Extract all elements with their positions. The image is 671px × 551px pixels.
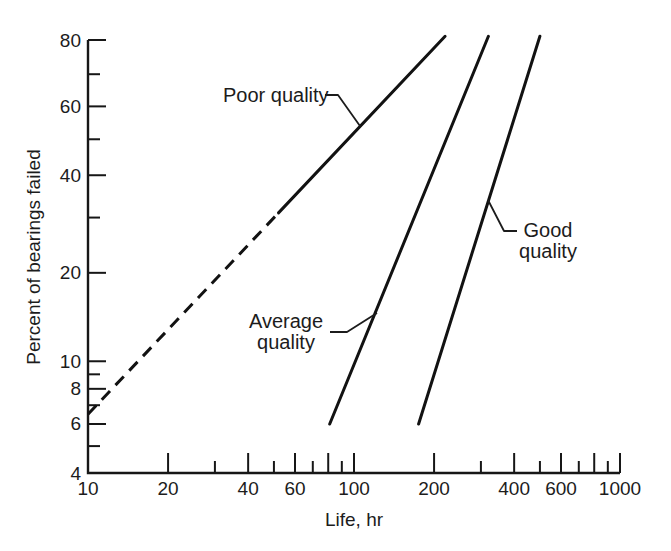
y-tick-label-80: 80 xyxy=(60,30,81,51)
series-line-poor-quality-solid xyxy=(279,36,446,213)
y-tick-label-40: 40 xyxy=(60,165,81,186)
y-axis-title: Percent of bearings failed xyxy=(23,149,44,364)
x-tick-label-600: 600 xyxy=(545,478,577,499)
x-tick-label-10: 10 xyxy=(77,478,98,499)
annotation-leader-poor-quality xyxy=(325,95,360,126)
bearing-life-weibull-chart: 4681020406080102040601002004006001000Poo… xyxy=(0,0,671,551)
annotation-label-average-quality-line1: Average xyxy=(249,310,323,332)
annotation-label-average-quality-line2: quality xyxy=(257,331,315,353)
x-tick-label-100: 100 xyxy=(338,478,370,499)
y-tick-label-6: 6 xyxy=(70,413,81,434)
x-tick-label-400: 400 xyxy=(498,478,530,499)
y-tick-label-10: 10 xyxy=(60,351,81,372)
y-tick-label-60: 60 xyxy=(60,96,81,117)
x-tick-label-60: 60 xyxy=(284,478,305,499)
x-tick-label-1000: 1000 xyxy=(599,478,641,499)
chart-canvas: 4681020406080102040601002004006001000Poo… xyxy=(0,0,671,551)
x-tick-label-200: 200 xyxy=(418,478,450,499)
x-tick-label-20: 20 xyxy=(158,478,179,499)
series-line-good-quality-solid xyxy=(419,36,540,424)
annotation-label-poor-quality-line1: Poor quality xyxy=(223,84,329,106)
chart-generated-content: 4681020406080102040601002004006001000Poo… xyxy=(60,30,641,500)
x-axis-title: Life, hr xyxy=(325,509,384,530)
x-tick-label-40: 40 xyxy=(238,478,259,499)
annotation-label-good-quality-line2: quality xyxy=(519,240,577,262)
annotation-label-good-quality-line1: Good xyxy=(524,219,573,241)
y-tick-label-8: 8 xyxy=(70,378,81,399)
y-tick-label-20: 20 xyxy=(60,262,81,283)
series-line-average-quality-solid xyxy=(330,36,489,424)
annotation-leader-good-quality xyxy=(488,200,517,231)
